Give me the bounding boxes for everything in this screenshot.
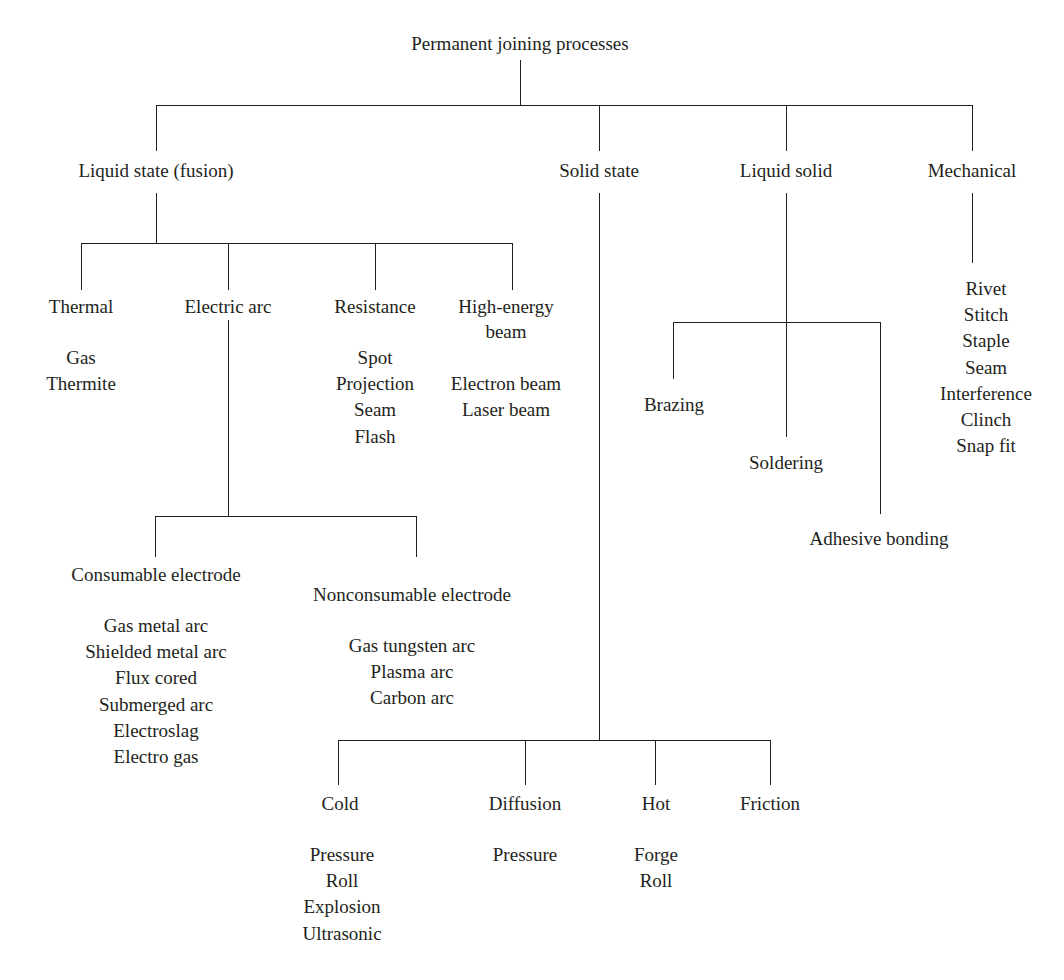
- leaf-item: Roll: [302, 868, 381, 894]
- connector-resistance-drop: [375, 243, 376, 290]
- leaf-item: Thermite: [46, 371, 116, 397]
- node-adhesive-bonding: Adhesive bonding: [810, 526, 949, 551]
- leaf-list-consumable-electrode: Gas metal arc Shielded metal arc Flux co…: [85, 613, 226, 770]
- node-nonconsumable-electrode: Nonconsumable electrode: [313, 582, 511, 607]
- connector-thermal-drop: [81, 243, 82, 290]
- connector-consumable-drop: [155, 516, 156, 557]
- connector-hot-drop: [655, 740, 656, 785]
- connector-fusion-bus: [81, 243, 513, 244]
- leaf-item: Seam: [940, 355, 1032, 381]
- leaf-item: Submerged arc: [85, 692, 226, 718]
- connector-brazing-drop: [673, 322, 674, 379]
- connector-mechanical-stem: [972, 193, 973, 263]
- connector-root-stem: [520, 60, 521, 105]
- leaf-item: Forge: [634, 842, 678, 868]
- node-soldering: Soldering: [749, 450, 823, 475]
- leaf-item: Spot: [336, 345, 414, 371]
- leaf-item: Roll: [634, 868, 678, 894]
- leaf-item: Seam: [336, 397, 414, 423]
- connector-electric-arc-stem: [228, 320, 229, 516]
- node-hot: Hot: [642, 791, 671, 816]
- leaf-item: Gas: [46, 345, 116, 371]
- node-friction: Friction: [740, 791, 800, 816]
- node-cold: Cold: [322, 791, 359, 816]
- connector-soldering-drop: [786, 322, 787, 437]
- node-consumable-electrode: Consumable electrode: [71, 562, 240, 587]
- connector-liquid-solid-drop: [786, 105, 787, 151]
- leaf-item: Ultrasonic: [302, 921, 381, 947]
- node-mechanical: Mechanical: [928, 158, 1017, 183]
- leaf-item: Interference: [940, 381, 1032, 407]
- node-diffusion: Diffusion: [489, 791, 561, 816]
- leaf-item: Carbon arc: [349, 685, 476, 711]
- connector-cold-drop: [338, 740, 339, 785]
- connector-liquid-solid-stem: [786, 193, 787, 323]
- leaf-item: Electro gas: [85, 744, 226, 770]
- leaf-list-high-energy-beam: Electron beam Laser beam: [451, 371, 561, 423]
- connector-solid-state-stem: [599, 193, 600, 740]
- node-liquid-solid: Liquid solid: [740, 158, 832, 183]
- connector-liquid-solid-bus: [673, 322, 881, 323]
- leaf-item: Plasma arc: [349, 659, 476, 685]
- node-solid-state: Solid state: [559, 158, 639, 183]
- leaf-list-mechanical: Rivet Stitch Staple Seam Interference Cl…: [940, 276, 1032, 460]
- leaf-item: Flux cored: [85, 665, 226, 691]
- node-high-energy-beam-line2: beam: [485, 319, 526, 344]
- node-brazing: Brazing: [644, 392, 704, 417]
- connector-electric-arc-drop: [228, 243, 229, 290]
- leaf-item: Gas tungsten arc: [349, 633, 476, 659]
- leaf-item: Stitch: [940, 302, 1032, 328]
- leaf-list-hot: Forge Roll: [634, 842, 678, 894]
- connector-electrode-bus: [155, 516, 416, 517]
- node-root: Permanent joining processes: [411, 31, 628, 56]
- leaf-list-cold: Pressure Roll Explosion Ultrasonic: [302, 842, 381, 947]
- connector-adhesive-bonding-drop: [880, 322, 881, 514]
- leaf-item: Gas metal arc: [85, 613, 226, 639]
- leaf-list-diffusion: Pressure: [493, 842, 557, 868]
- node-resistance: Resistance: [334, 294, 415, 319]
- leaf-item: Shielded metal arc: [85, 639, 226, 665]
- connector-solid-state-drop: [599, 105, 600, 151]
- leaf-item: Explosion: [302, 894, 381, 920]
- leaf-item: Electroslag: [85, 718, 226, 744]
- node-thermal: Thermal: [49, 294, 113, 319]
- leaf-list-nonconsumable-electrode: Gas tungsten arc Plasma arc Carbon arc: [349, 633, 476, 712]
- leaf-list-resistance: Spot Projection Seam Flash: [336, 345, 414, 450]
- connector-level1-bus: [156, 105, 973, 106]
- leaf-item: Pressure: [493, 842, 557, 868]
- leaf-item: Pressure: [302, 842, 381, 868]
- connector-diffusion-drop: [525, 740, 526, 785]
- leaf-item: Snap fit: [940, 433, 1032, 459]
- connector-liquid-state-drop: [156, 105, 157, 151]
- leaf-list-thermal: Gas Thermite: [46, 345, 116, 397]
- leaf-item: Staple: [940, 328, 1032, 354]
- leaf-item: Projection: [336, 371, 414, 397]
- connector-mechanical-drop: [972, 105, 973, 151]
- node-high-energy-beam-line1: High-energy: [458, 294, 554, 319]
- node-liquid-state: Liquid state (fusion): [78, 158, 233, 183]
- connector-solid-state-bus: [338, 740, 771, 741]
- leaf-item: Laser beam: [451, 397, 561, 423]
- connector-friction-drop: [770, 740, 771, 785]
- connector-nonconsumable-drop: [416, 516, 417, 557]
- leaf-item: Flash: [336, 424, 414, 450]
- leaf-item: Rivet: [940, 276, 1032, 302]
- leaf-item: Clinch: [940, 407, 1032, 433]
- node-electric-arc: Electric arc: [184, 294, 271, 319]
- connector-high-energy-drop: [512, 243, 513, 290]
- connector-liquid-state-stem: [156, 193, 157, 243]
- diagram-canvas: Permanent joining processes Liquid state…: [0, 0, 1064, 980]
- leaf-item: Electron beam: [451, 371, 561, 397]
